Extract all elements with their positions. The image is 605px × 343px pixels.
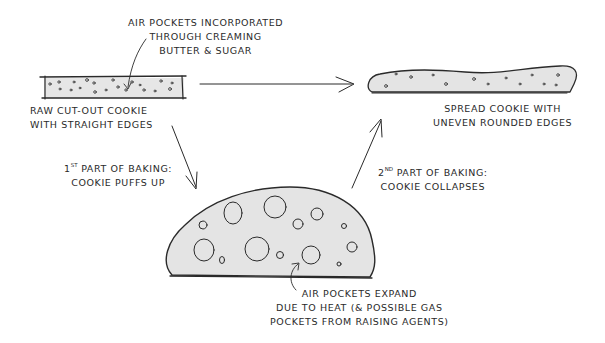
ordinal: 2 bbox=[378, 167, 385, 178]
label-text: part of baking: bbox=[81, 163, 172, 174]
note-line: due to heat (& possible gas bbox=[270, 301, 449, 315]
spread-cookie-shape bbox=[368, 66, 576, 93]
label-line: 2nd part of baking: bbox=[378, 166, 488, 180]
second-baking-label: 2nd part of baking: cookie collapses bbox=[378, 166, 488, 194]
label-line: cookie puffs up bbox=[64, 176, 172, 190]
air-pockets-expand-note: Air pockets expand due to heat (& possib… bbox=[270, 287, 449, 329]
ordinal-suffix: st bbox=[71, 162, 78, 168]
ordinal-suffix: nd bbox=[385, 166, 393, 172]
arrow-first-baking bbox=[172, 126, 197, 189]
note-line: butter & sugar bbox=[128, 44, 283, 58]
note-line: through creaming bbox=[128, 30, 283, 44]
arrow-raw-to-spread bbox=[200, 77, 354, 92]
label-line: cookie collapses bbox=[378, 180, 488, 194]
spread-cookie-label: Spread cookie with uneven rounded edges bbox=[433, 102, 572, 130]
air-pockets-note: Air pockets incorporated through creamin… bbox=[128, 16, 283, 58]
label-line: Raw cut-out cookie bbox=[30, 104, 153, 118]
ordinal: 1 bbox=[64, 163, 71, 174]
first-baking-label: 1st part of baking: cookie puffs up bbox=[64, 162, 172, 190]
label-line: with straight edges bbox=[30, 118, 153, 132]
label-text: part of baking: bbox=[397, 167, 488, 178]
raw-cookie-shape bbox=[40, 76, 186, 99]
label-line: Spread cookie with bbox=[433, 102, 572, 116]
note-line: Air pockets expand bbox=[270, 287, 449, 301]
raw-cookie-label: Raw cut-out cookie with straight edges bbox=[30, 104, 153, 132]
label-line: 1st part of baking: bbox=[64, 162, 172, 176]
note-line: pockets from raising agents) bbox=[270, 315, 449, 329]
label-line: uneven rounded edges bbox=[433, 116, 572, 130]
note-line: Air pockets incorporated bbox=[128, 16, 283, 30]
puffed-cookie-shape bbox=[166, 187, 375, 278]
